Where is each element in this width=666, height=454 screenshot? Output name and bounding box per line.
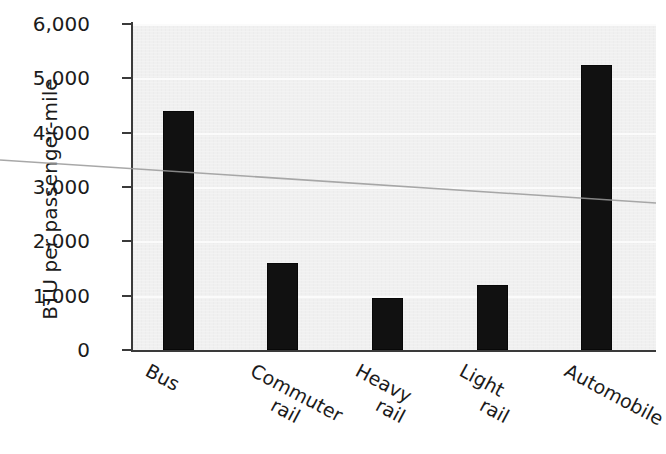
y-tick-label: 5,000: [33, 66, 90, 90]
x-tick-label-line1: Automobile: [561, 360, 666, 430]
x-tick-label: Bus: [142, 360, 183, 395]
y-tick-label: 4,000: [33, 121, 90, 145]
y-tick-label: 1,000: [33, 284, 90, 308]
bar: [477, 285, 508, 350]
x-tick-label: Automobile: [561, 360, 666, 430]
gridline: [133, 24, 656, 26]
y-tick-label: 6,000: [33, 12, 90, 36]
x-tick-label-line1: Bus: [142, 360, 183, 395]
x-tick-label: Commuterrail: [237, 360, 346, 445]
gridline: [133, 296, 656, 298]
gridline: [133, 133, 656, 135]
gridline: [133, 187, 656, 189]
y-axis-ticks: 01,0002,0003,0004,0005,0006,000: [0, 0, 112, 454]
x-tick-label: Heavyrail: [342, 360, 418, 428]
bar: [267, 263, 298, 350]
y-axis-line: [131, 22, 133, 352]
y-tick-label: 3,000: [33, 175, 90, 199]
bar: [581, 65, 612, 350]
x-tick-label: Lightrail: [446, 360, 522, 428]
bar: [372, 298, 403, 350]
gridline: [133, 78, 656, 80]
plot-area: [133, 24, 656, 350]
y-tick-label: 2,000: [33, 229, 90, 253]
y-tick-label: 0: [77, 338, 90, 362]
gridline: [133, 241, 656, 243]
bar: [163, 111, 194, 350]
x-axis-line: [131, 350, 656, 352]
